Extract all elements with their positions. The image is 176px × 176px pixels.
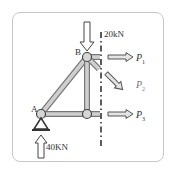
- force-label-p2: P2: [136, 80, 145, 92]
- truss-diagram: [0, 0, 176, 176]
- force-arrow-p1-icon: [108, 53, 133, 62]
- load-label-top: 20kN: [104, 30, 124, 39]
- truss-members: [41, 57, 100, 114]
- node-label-a: A: [31, 105, 38, 114]
- load-label-reaction: 40KN: [46, 143, 68, 152]
- force-label-p3-sub: 3: [142, 116, 145, 122]
- force-label-p3: P3: [136, 110, 145, 122]
- node-b: [83, 53, 92, 62]
- force-label-p1-sub: 1: [142, 59, 145, 65]
- node-c: [83, 110, 92, 119]
- force-arrow-p2-icon: [103, 70, 126, 93]
- force-label-p2-sub: 2: [142, 86, 145, 92]
- force-arrow-p3-icon: [108, 110, 133, 119]
- force-label-p1: P1: [136, 53, 145, 65]
- pin-support-icon: [32, 118, 50, 130]
- load-arrow-down-icon: [80, 22, 94, 51]
- node-label-b: B: [75, 48, 81, 57]
